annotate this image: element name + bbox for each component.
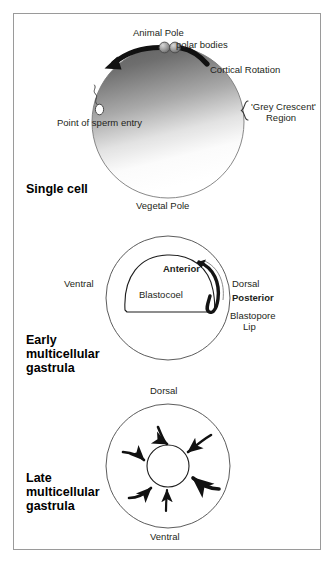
label-vegetal-pole: Vegetal Pole <box>136 200 189 211</box>
figure-page: Animal Pole polar bodies Cortical Rotati… <box>0 0 336 565</box>
label-point-of-sperm-entry: Point of sperm entry <box>57 117 142 128</box>
label-blastocoel: Blastocoel <box>139 289 183 300</box>
stage-label-early-gastrula: Early multicellular gastrula <box>26 333 100 375</box>
label-grey-crescent-region-line1: 'Grey Crescent' <box>251 101 316 112</box>
stage-label-single-cell: Single cell <box>26 182 88 196</box>
label-anterior: Anterior <box>163 263 200 274</box>
figure-border <box>13 13 321 550</box>
label-grey-crescent-region-line2: Region <box>266 112 296 123</box>
label-early-dorsal: Dorsal <box>232 278 259 289</box>
label-early-ventral: Ventral <box>64 278 94 289</box>
label-animal-pole: Animal Pole <box>133 27 184 38</box>
label-posterior: Posterior <box>232 292 274 303</box>
label-blastopore-lip-line2: Lip <box>243 321 256 332</box>
label-late-ventral: Ventral <box>150 531 180 542</box>
stage-label-late-gastrula: Late multicellular gastrula <box>26 471 100 513</box>
label-polar-bodies: polar bodies <box>176 39 228 50</box>
label-blastopore-lip-line1: Blastopore <box>230 310 275 321</box>
label-cortical-rotation: Cortical Rotation <box>210 64 280 75</box>
label-late-dorsal: Dorsal <box>150 385 177 396</box>
